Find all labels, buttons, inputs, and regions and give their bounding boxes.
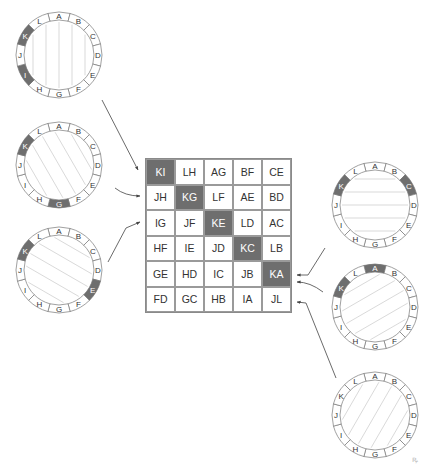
ring-label: K xyxy=(339,392,345,401)
cipher-circle-c1: ABCDEFGHIJKL xyxy=(16,12,102,99)
ring-label: G xyxy=(56,90,62,99)
ring-label: A xyxy=(56,12,62,21)
arrow-c3-to-row3 xyxy=(108,222,140,262)
ring-label: B xyxy=(392,269,397,278)
ring-label: J xyxy=(334,303,338,312)
grid-cell: JF xyxy=(175,210,204,236)
grid-cell: LF xyxy=(204,185,233,211)
ring-label: H xyxy=(37,85,43,94)
ring-label: K xyxy=(339,284,345,293)
ring-label: H xyxy=(353,337,359,346)
ring-label: B xyxy=(76,127,81,136)
grid-cell: KE xyxy=(204,210,233,236)
ring-label: F xyxy=(392,235,397,244)
chord-line xyxy=(43,136,76,193)
ring-label: L xyxy=(37,17,42,26)
grid-cell: LB xyxy=(262,236,291,262)
ring-label: F xyxy=(76,85,81,94)
ring-label: F xyxy=(392,445,397,454)
ring-label: E xyxy=(90,181,95,190)
ring-label: G xyxy=(372,342,378,351)
pairing-grid: KILHAGBFCEJHKGLFAEBDIGJFKELDACHFIEJDKCLB… xyxy=(145,158,292,313)
ring-label: C xyxy=(406,392,412,401)
ring-label: I xyxy=(340,323,342,332)
ring-label: C xyxy=(90,247,96,256)
grid-cell: JL xyxy=(262,287,291,313)
grid-cell: LH xyxy=(175,159,204,185)
grid-cell: BF xyxy=(233,159,262,185)
ring-label: J xyxy=(18,266,22,275)
ring-label: L xyxy=(37,127,42,136)
chord-line xyxy=(371,395,401,448)
grid-cell: KC xyxy=(233,236,262,262)
arrow-c4-to-row4 xyxy=(297,248,325,275)
watermark: ꝶ xyxy=(412,453,418,464)
grid-cell: AE xyxy=(233,185,262,211)
chord-line xyxy=(355,303,408,333)
ring-label: D xyxy=(95,266,101,275)
ring-label: C xyxy=(90,32,96,41)
grid-cell: KI xyxy=(146,159,175,185)
grid-cell: GE xyxy=(146,261,175,287)
grid-cell: JB xyxy=(233,261,262,287)
ring-label: B xyxy=(76,17,81,26)
grid-cell: IE xyxy=(175,236,204,262)
chord-line xyxy=(55,132,85,185)
grid-cell: IG xyxy=(146,210,175,236)
ring-label: C xyxy=(90,142,96,151)
grid-cell: LD xyxy=(233,210,262,236)
grid-cell: JH xyxy=(146,185,175,211)
chord-line xyxy=(346,291,403,324)
ring-label: B xyxy=(76,232,81,241)
grid-cell: BD xyxy=(262,185,291,211)
grid-cell: KG xyxy=(175,185,204,211)
arrow-c5-to-row5 xyxy=(297,282,323,292)
ring-label: D xyxy=(411,303,417,312)
ring-label: L xyxy=(353,167,358,176)
ring-label: L xyxy=(353,269,358,278)
cipher-circle-c3: ABCDEFGHIJKL xyxy=(16,227,102,314)
ring-label: A xyxy=(56,122,62,131)
ring-label: F xyxy=(392,337,397,346)
cipher-circle-c4: ABCDEFGHIJKL xyxy=(332,162,418,249)
grid-cell: KA xyxy=(262,261,291,287)
ring-label: D xyxy=(411,201,417,210)
ring-label: K xyxy=(23,142,29,151)
ring-label: G xyxy=(56,305,62,314)
ring-label: A xyxy=(56,227,62,236)
chord-line xyxy=(359,386,392,443)
ring-label: F xyxy=(76,195,81,204)
grid-cell: HD xyxy=(175,261,204,287)
grid-cell: FD xyxy=(146,287,175,313)
ring-label: C xyxy=(406,284,412,293)
ring-label: E xyxy=(406,221,411,230)
ring-label: A xyxy=(372,372,378,381)
ring-label: G xyxy=(372,240,378,249)
ring-label: D xyxy=(95,161,101,170)
ring-label: C xyxy=(406,182,412,191)
ring-label: E xyxy=(90,71,95,80)
ring-label: I xyxy=(24,71,26,80)
ring-label: B xyxy=(392,167,397,176)
arrow-c6-to-row6 xyxy=(297,302,336,378)
ring-label: F xyxy=(76,300,81,309)
ring-label: H xyxy=(353,235,359,244)
ring-label: E xyxy=(90,286,95,295)
grid-cell: HB xyxy=(204,287,233,313)
ring-label: H xyxy=(37,300,43,309)
grid-cell: IC xyxy=(204,261,233,287)
ring-label: H xyxy=(353,445,359,454)
ring-label: B xyxy=(392,377,397,386)
ring-label: I xyxy=(340,431,342,440)
ring-label: I xyxy=(24,181,26,190)
ring-label: A xyxy=(372,264,378,273)
chord-line xyxy=(349,382,379,435)
ring-label: H xyxy=(37,195,43,204)
cipher-circle-c2: ABCDEFGHIJKL xyxy=(16,122,102,209)
grid-cell: IA xyxy=(233,287,262,313)
chord-line xyxy=(342,281,395,311)
grid-cell: AG xyxy=(204,159,233,185)
grid-cell: HF xyxy=(146,236,175,262)
chord-line xyxy=(26,266,79,296)
chord-line xyxy=(30,254,87,287)
